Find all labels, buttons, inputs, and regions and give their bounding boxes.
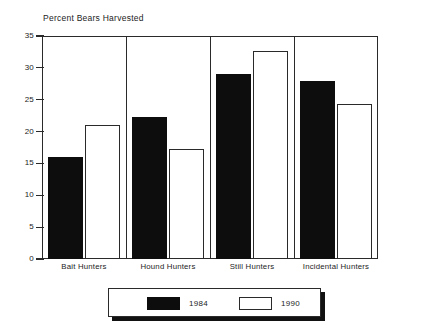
chart-legend: 1984 1990 [108,288,321,317]
x-axis-label-incidental-hunters: Incidental Hunters [276,262,396,271]
bar-1990-still-hunters [253,51,288,259]
bar-1984-incidental-hunters [300,81,335,259]
bar-chart-figure: Percent Bears Harvested 05101520253035 B… [0,0,422,329]
y-axis-tick-label: 15 [8,158,34,167]
legend-swatch-1984 [147,297,180,310]
legend-entry-1984: 1984 [147,296,208,310]
group-divider [126,36,127,259]
group-divider [294,36,295,259]
y-axis-tick-label: 25 [8,95,34,104]
bar-1990-hound-hunters [169,149,204,259]
bars-layer [42,36,378,259]
y-axis-tick-label: 10 [8,190,34,199]
y-axis-tick-label: 30 [8,63,34,72]
legend-swatch-1990 [239,297,272,310]
legend-entry-1990: 1990 [239,296,300,310]
chart-title: Percent Bears Harvested [43,13,144,23]
group-divider [210,36,211,259]
bar-1984-bait-hunters [48,157,83,259]
y-axis-tick-label: 5 [8,222,34,231]
bar-1984-hound-hunters [132,117,167,259]
y-axis-tick-label: 35 [8,31,34,40]
legend-label-1990: 1990 [281,299,300,308]
y-axis-tick-label: 20 [8,127,34,136]
bar-1990-bait-hunters [85,125,120,259]
bar-1984-still-hunters [216,74,251,259]
bar-1990-incidental-hunters [337,104,372,259]
legend-label-1984: 1984 [189,299,208,308]
